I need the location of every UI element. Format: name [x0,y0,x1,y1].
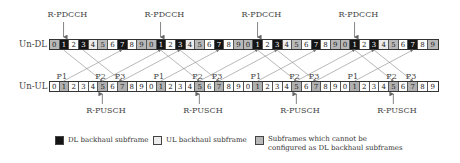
legend-swatch-restricted [255,136,264,145]
r-pusch-label: R-PUSCH [377,106,416,115]
harq-process-label: P2 [289,72,299,81]
legend-restricted-label-line1: Subframes which cannot be [268,135,367,144]
r-pusch-label: R-PUSCH [280,106,319,115]
harq-process-label: P3 [406,72,416,81]
harq-process-label: P2 [192,72,202,81]
legend-swatch-ul [153,136,162,145]
harq-process-label: P1 [154,72,164,81]
harq-process-label: P3 [115,72,125,81]
r-pdcch-label: R-PDCCH [242,10,282,19]
harq-process-label: P1 [348,72,358,81]
r-pdcch-label: R-PDCCH [145,10,185,19]
legend-ul-label: UL backhaul subframe [166,136,247,145]
legend-restricted-label-line2: configured as DL backhaul subframes [268,144,403,153]
harq-process-label: P3 [309,72,319,81]
harq-process-label: P1 [251,72,261,81]
r-pusch-label: R-PUSCH [86,106,125,115]
harq-process-label: P3 [212,72,222,81]
legend-dl-label: DL backhaul subframe [68,136,148,145]
r-pdcch-label: R-PDCCH [339,10,379,19]
legend-swatch-dl [55,136,64,145]
harq-process-label: P2 [95,72,105,81]
harq-process-label: P1 [57,72,67,81]
r-pdcch-label: R-PDCCH [48,10,88,19]
harq-process-label: P2 [386,72,396,81]
r-pusch-label: R-PUSCH [183,106,222,115]
